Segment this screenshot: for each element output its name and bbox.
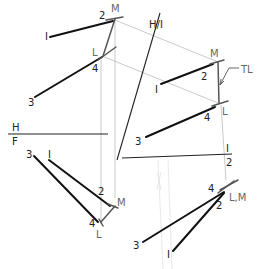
aux2-view [143, 180, 238, 251]
label-aux1-M: M [210, 48, 219, 59]
front-view [34, 156, 118, 226]
label-front-M: M [117, 197, 126, 208]
line-lm-front [101, 206, 115, 222]
label-aux1-1: I [155, 84, 158, 95]
label-fold-h1: H/I [149, 19, 163, 30]
label-fold-1: I [226, 143, 229, 154]
label-top-3: 3 [28, 97, 34, 108]
label-front-L: L [96, 229, 102, 240]
line-12-top [50, 21, 113, 37]
label-top-2: 2 [99, 10, 105, 21]
top-view [35, 17, 123, 97]
label-front-1: I [48, 149, 51, 160]
label-fold-F: F [12, 136, 18, 147]
label-top-4: 4 [92, 63, 98, 74]
label-fold-2: 2 [226, 157, 232, 168]
label-fold-H: H [12, 122, 20, 133]
label-top-M: M [111, 3, 120, 14]
label-front-2: 2 [98, 186, 104, 197]
label-aux1-2: 2 [201, 71, 207, 82]
line-lm-top [103, 19, 115, 56]
aux1-view [146, 60, 239, 137]
label-top-1: I [45, 31, 48, 42]
label-front-3: 3 [26, 149, 32, 160]
label-front-4: 4 [89, 218, 95, 229]
line-lm-true-length [218, 62, 219, 103]
label-aux2-2: 2 [216, 200, 222, 211]
label-mid-3: 3 [135, 136, 141, 147]
label-aux1-4: 4 [204, 112, 210, 123]
fold-line-12 [122, 154, 232, 158]
label-top-L: L [92, 47, 98, 58]
diagram-canvas: I 2 M L 4 3 H/I H F I 2 M 2 I TL L 4 3 3… [0, 0, 262, 269]
line-34-aux2 [143, 192, 224, 242]
label-point-view-LM: L,M [229, 192, 246, 203]
label-aux2-1: I [167, 249, 170, 260]
label-aux1-L: L [222, 106, 228, 117]
label-aux2-3: 3 [133, 240, 139, 251]
label-aux2-4: 4 [208, 183, 214, 194]
fold-lines [8, 13, 232, 160]
label-true-length: TL [240, 64, 253, 75]
